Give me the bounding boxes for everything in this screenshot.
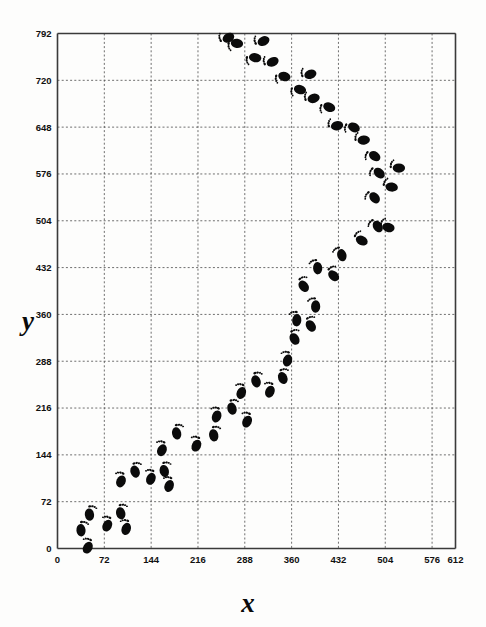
footprint-toe (162, 461, 166, 464)
footprint-toe (243, 411, 246, 414)
footprint-toe (115, 472, 117, 474)
footprint-toe (163, 477, 165, 479)
footprint-sole (250, 374, 263, 389)
footprint-marker-right (234, 382, 248, 400)
footprint-toe (229, 399, 233, 402)
footprint-toe (94, 506, 96, 508)
footprint-toe (328, 120, 330, 122)
footprint-toe (135, 462, 138, 465)
footprint-toe (389, 165, 392, 168)
footprint-sole (354, 234, 369, 248)
x-axis-tick-labels: 072144216288360432504576612 (55, 554, 464, 565)
footprint-toe (259, 372, 262, 374)
x-tick-label: 432 (331, 554, 347, 565)
footprint-sole (303, 68, 318, 81)
footprint-toe (175, 424, 179, 427)
footprint-sole (357, 135, 370, 145)
footprint-marker-left (225, 398, 239, 416)
footprint-toe (256, 371, 259, 374)
footprint-toe (302, 68, 304, 70)
footprint-sole (240, 414, 254, 429)
footprint-marker-right (119, 519, 133, 537)
footprint-sole (129, 464, 142, 479)
footprint-sole (226, 401, 238, 415)
y-axis-title: y (19, 306, 35, 336)
footprint-toe (290, 312, 292, 314)
x-tick-label: 504 (377, 554, 394, 565)
footprint-toe (320, 111, 322, 113)
plot-frame (58, 34, 456, 549)
footprint-toe (327, 122, 330, 125)
footprint-marker-left (286, 328, 302, 348)
footprint-toe (145, 470, 147, 472)
footprint-toe (329, 118, 331, 120)
y-tick-label: 288 (36, 356, 52, 367)
footprint-toe (292, 311, 295, 313)
footprint-marker-left (73, 519, 89, 539)
y-tick-label: 504 (36, 215, 53, 226)
footprint-toe (230, 49, 232, 51)
footprint-marker-right (319, 100, 337, 114)
footprint-marker-left (326, 118, 345, 133)
x-tick-label: 360 (284, 554, 300, 565)
footprint-toe (119, 471, 122, 474)
footprint-toe (80, 521, 83, 524)
footprint-toe (91, 505, 94, 507)
footprint-toe (319, 104, 322, 108)
footprint-sole (208, 428, 220, 442)
footprint-toe (304, 93, 306, 96)
footprint-sole (144, 471, 157, 486)
footprint-sole (367, 149, 382, 164)
footprint-marker-left (82, 504, 98, 523)
footprint-sole (248, 52, 262, 63)
footprint-sole (311, 300, 321, 313)
footprint-marker-left (294, 274, 312, 295)
footprint-toe (248, 63, 250, 65)
footprint-marker-left (350, 229, 372, 251)
footprint-toe (294, 311, 297, 314)
footprint-toe (253, 371, 257, 374)
footprint-toe (218, 34, 221, 37)
footprint-marker-left (114, 503, 128, 521)
footprint-toe (178, 424, 181, 427)
x-tick-label: 72 (99, 554, 110, 565)
footprint-toe (364, 156, 367, 159)
footprint-marker-right (308, 256, 327, 277)
footprint-marker-right (331, 243, 351, 265)
footprint-sole (346, 120, 361, 134)
footprint-sole (84, 508, 95, 522)
footprint-toe (160, 440, 163, 443)
footprint-toe (384, 217, 386, 220)
footprint-toe (214, 406, 217, 409)
footprint-toe (275, 74, 278, 78)
footprint-marker-left (170, 423, 185, 442)
x-tick-label: 144 (143, 554, 160, 565)
footprint-toe (313, 297, 316, 300)
footprint-toe (245, 56, 248, 60)
footprint-sole (155, 443, 168, 458)
footprint-sole (385, 182, 399, 193)
footprint-toe (297, 329, 299, 331)
footprint-toe (192, 435, 195, 438)
footprint-marker-left (250, 371, 263, 388)
footprint-marker-left (253, 33, 272, 48)
footprint-marker-left (276, 367, 290, 385)
footprint-toe (245, 411, 248, 414)
footprint-sole (163, 479, 176, 494)
footprint-marker-right (343, 119, 362, 135)
footprint-toe (156, 441, 158, 443)
footprint-toe (319, 109, 321, 112)
footprint-marker-right (189, 435, 204, 454)
footprint-sole (336, 248, 348, 262)
footprint-toe (215, 425, 218, 428)
footprint-toe (355, 133, 357, 135)
footprint-toe (158, 440, 161, 442)
footprint-marker-left (303, 92, 320, 105)
footprint-scatter-figure: 072144216288360432504576612 072144216288… (0, 0, 486, 627)
footprint-toe (268, 381, 271, 384)
footprint-toe (292, 95, 294, 97)
footprint-toe (281, 352, 283, 354)
footprint-marker-right (274, 70, 292, 84)
footprint-toe (332, 251, 335, 253)
footprint-sole (381, 221, 395, 233)
